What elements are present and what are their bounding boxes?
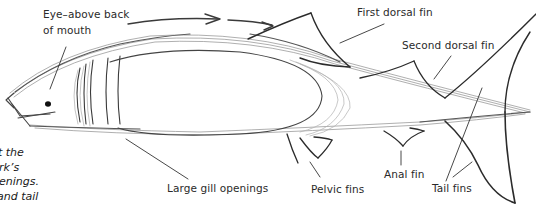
eye-label-line2: of mouth xyxy=(43,23,129,38)
pelvic-fins-label: Pelvic fins xyxy=(311,182,364,197)
shark-diagram: Eye–above back of mouth First dorsal fin… xyxy=(0,0,536,211)
caption-line-2: rk’s xyxy=(0,161,40,176)
pelvic-leader xyxy=(310,162,320,177)
caption-line-3: enings. xyxy=(0,175,40,190)
tail-upper xyxy=(445,14,536,112)
tail-leader-2 xyxy=(453,162,472,177)
eye-label: Eye–above back of mouth xyxy=(43,7,129,38)
motion-arrows xyxy=(128,14,273,30)
anal-fin-label: Anal fin xyxy=(384,167,425,182)
second-dorsal-fin-label: Second dorsal fin xyxy=(402,38,495,53)
pelvic-fins xyxy=(287,134,332,163)
eye-label-line1: Eye–above back xyxy=(43,7,129,22)
tail-leader-1 xyxy=(446,88,482,181)
gill-slits xyxy=(77,56,120,124)
caption-line-4: and tail xyxy=(0,190,38,205)
caption-line-1: t the xyxy=(0,146,39,161)
gill-openings-label: Large gill openings xyxy=(167,181,268,196)
eye xyxy=(45,101,51,107)
first-dorsal-leader xyxy=(340,24,384,43)
second-dorsal-leader xyxy=(434,56,451,79)
snout xyxy=(6,93,55,126)
gill-leader xyxy=(126,139,188,179)
first-dorsal-fin-label: First dorsal fin xyxy=(357,5,433,20)
body-oval xyxy=(110,50,322,135)
anal-fin xyxy=(384,128,424,146)
tail-fins-label: Tail fins xyxy=(432,181,472,196)
caption-fragment: t the rk’s enings. and tail xyxy=(0,146,41,204)
